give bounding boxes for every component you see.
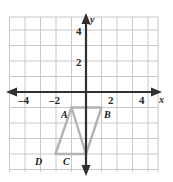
vertex-label-d: D — [35, 157, 42, 167]
x-tick-label-2: 2 — [108, 95, 114, 106]
x-tick-label-neg2: –2 — [49, 95, 60, 106]
x-tick-label-4: 4 — [139, 95, 145, 106]
y-tick-label-4: 4 — [76, 26, 82, 37]
y-tick-label-2: 2 — [76, 57, 82, 68]
x-tick-label-neg4: –4 — [18, 95, 29, 106]
y-axis-name: y — [90, 15, 94, 25]
vertex-label-b: B — [104, 110, 111, 120]
coordinate-plane-figure: –4 –2 2 4 4 2 x y A B C D — [0, 0, 173, 182]
coordinate-plane-canvas — [0, 0, 173, 182]
x-axis-left-arrow — [6, 88, 17, 97]
diagonal-ac — [72, 108, 87, 155]
x-axis-name: x — [159, 95, 164, 105]
vertex-label-a: A — [61, 110, 68, 120]
vertex-label-c: C — [63, 157, 70, 167]
y-axis — [82, 13, 91, 176]
y-axis-down-arrow — [82, 165, 91, 176]
